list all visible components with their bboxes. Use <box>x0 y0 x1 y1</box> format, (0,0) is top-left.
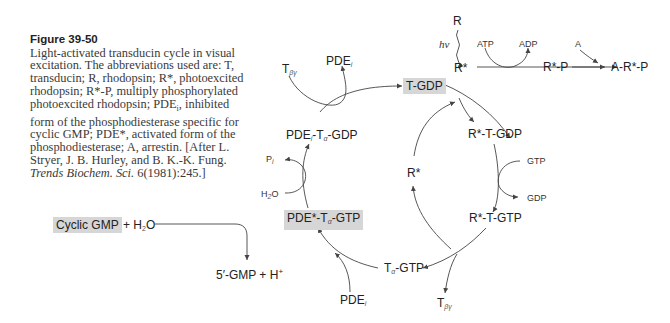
label-adp: ADP <box>519 37 538 51</box>
label-h2o: H2O <box>261 187 278 204</box>
pdei-bottom-sub: i <box>365 300 367 307</box>
pdei-top-main: PDE <box>326 54 351 68</box>
label-arrestin: A <box>575 37 581 51</box>
plus-water-a: + H <box>123 218 142 232</box>
node-rstar-center: R* <box>407 166 420 180</box>
pdei-bottom-main: PDE <box>340 293 365 307</box>
label-rstar-p: R*-P <box>543 60 568 74</box>
label-plus-water: + H2O <box>123 218 155 236</box>
pi-sub: i <box>272 158 274 165</box>
node-rstar-t-gtp: R*-T-GTP <box>469 211 522 225</box>
node-pdestar-talpha-gtp: PDE*-Tα-GTP <box>284 210 363 230</box>
label-atp: ATP <box>477 37 494 51</box>
product-a: 5′-GMP + H <box>216 268 278 282</box>
label-tbg-top: Tβγ <box>282 62 297 80</box>
node-talpha-gtp: Tα-GTP <box>384 261 424 279</box>
label-cyclic-gmp: Cyclic GMP <box>53 217 122 233</box>
node-t-gdp: T-GDP <box>403 78 446 94</box>
label-pdei-top: PDEi <box>326 54 352 72</box>
pdei-top-sub: i <box>351 61 353 68</box>
label-rstar-top: R* <box>454 61 467 75</box>
label-pi: Pi <box>266 152 274 169</box>
label-r: R <box>453 14 462 28</box>
label-hv: hν <box>439 37 449 51</box>
node-pdei-talpha-gdp: PDEi-Tα-GDP <box>286 128 358 146</box>
label-tbg-bottom: Tβγ <box>437 296 452 314</box>
label-pdei-bottom: PDEi <box>340 293 366 311</box>
node-rstar-t-gdp: R*-T-GDP <box>468 127 522 141</box>
h2o-end: O <box>271 189 278 199</box>
pdei-gdp-mid: -T <box>312 128 323 142</box>
talpha-end: -GTP <box>395 261 424 275</box>
label-5gmp-product: 5′-GMP + H+ <box>216 265 283 282</box>
tbg-top-sub: βγ <box>289 69 297 76</box>
pdei-gdp-main: PDE <box>286 128 311 142</box>
label-gdp: GDP <box>527 191 547 205</box>
plus-water-b: O <box>146 218 155 232</box>
label-a-rstar-p: A-R*-P <box>611 60 648 74</box>
pdei-gdp-end: -GDP <box>328 128 358 142</box>
pdestar-end: -GTP <box>332 211 361 225</box>
tbg-bottom-sub: βγ <box>444 303 452 310</box>
product-sup: + <box>278 267 283 276</box>
diagram-arrows-2 <box>0 0 670 323</box>
label-gtp: GTP <box>527 154 546 168</box>
pdestar-main: PDE*-T <box>287 211 328 225</box>
